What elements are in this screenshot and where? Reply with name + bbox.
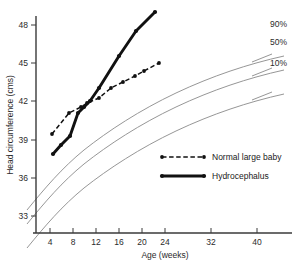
y-tick-label-39: 39 [19,135,29,145]
series-normal-large-baby [50,61,161,136]
x-axis-tick-labels: 4 8 12 16 20 24 32 40 [48,237,262,247]
percentile-curves [27,54,284,248]
x-tick-label-8: 8 [71,237,76,247]
x-tick-label-32: 32 [206,237,216,247]
legend-item-hydrocephalus: Hydrocephalus [160,171,269,181]
y-tick-label-36: 36 [19,173,29,183]
legend-label-normal-large-baby: Normal large baby [212,152,282,162]
head-circumference-growth-chart: 90% 50% 10% [0,0,296,263]
percentile-labels: 90% 50% 10% [270,19,287,68]
x-tick-label-4: 4 [48,237,53,247]
legend-item-normal-large-baby: Normal large baby [160,152,282,162]
y-axis-ticks [31,25,36,216]
chart-legend: Normal large baby Hydrocephalus [160,152,282,181]
y-axis-tick-labels: 48 45 42 39 36 33 [19,20,29,221]
percentile-label-10: 10% [270,58,287,68]
series-hydrocephalus-line [53,12,155,154]
x-tick-label-24: 24 [160,237,170,247]
chart-svg: 90% 50% 10% [0,0,296,263]
percentile-leader-50 [252,68,272,76]
percentile-curve-90 [27,56,284,210]
series-normal-large-baby-markers [50,61,161,136]
x-tick-label-12: 12 [91,237,101,247]
y-tick-label-42: 42 [19,96,29,106]
y-tick-label-45: 45 [19,58,29,68]
legend-label-hydrocephalus: Hydrocephalus [212,171,269,181]
x-tick-label-16: 16 [114,237,124,247]
y-tick-label-48: 48 [19,20,29,30]
series-hydrocephalus [51,10,157,156]
series-normal-large-baby-line [52,63,159,134]
x-axis-title: Age (weeks) [141,250,188,260]
y-tick-label-33: 33 [19,211,29,221]
x-axis-ticks [50,228,257,233]
y-axis-title: Head circumference (cms) [5,75,15,175]
x-tick-label-40: 40 [252,237,262,247]
percentile-leader-90 [252,54,272,62]
percentile-label-50: 50% [270,37,287,47]
percentile-leader-10 [252,92,272,100]
series-hydrocephalus-markers [51,10,157,156]
percentile-curve-50 [27,70,284,224]
x-tick-label-20: 20 [137,237,147,247]
percentile-label-90: 90% [270,19,287,29]
